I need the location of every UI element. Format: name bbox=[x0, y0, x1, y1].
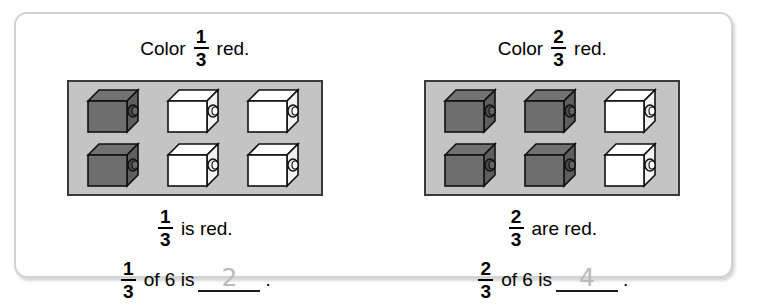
problem-2: Color 2 3 red. bbox=[374, 14, 732, 276]
worksheet-frame: Color 1 3 red. bbox=[14, 12, 733, 278]
fraction-denominator: 3 bbox=[122, 282, 135, 301]
cube-dark[interactable] bbox=[523, 88, 581, 134]
fraction-numerator: 1 bbox=[122, 259, 135, 278]
equation-period: . bbox=[623, 270, 628, 289]
answer-rule bbox=[556, 290, 618, 292]
fraction-denominator: 3 bbox=[552, 50, 565, 69]
cube-white[interactable] bbox=[603, 88, 661, 134]
equation-fraction: 1 3 bbox=[121, 259, 136, 302]
problem-1-cube-panel bbox=[67, 80, 323, 196]
problem-2-cube-panel bbox=[424, 80, 680, 196]
cube-dark[interactable] bbox=[443, 142, 501, 188]
fraction-denominator: 3 bbox=[159, 230, 172, 249]
statement-fraction: 1 3 bbox=[158, 207, 173, 250]
cube-dark[interactable] bbox=[523, 142, 581, 188]
prompt-fraction: 1 3 bbox=[194, 27, 209, 70]
fraction-denominator: 3 bbox=[195, 50, 208, 69]
cube-white[interactable] bbox=[246, 88, 304, 134]
cube-white[interactable] bbox=[166, 88, 224, 134]
cube-row bbox=[443, 142, 661, 188]
prompt-fraction: 2 3 bbox=[551, 27, 566, 70]
problem-1-statement: 1 3 is red. bbox=[156, 207, 234, 250]
equation-text: of 6 is bbox=[500, 270, 553, 289]
problem-1-equation: 1 3 of 6 is 2 . bbox=[119, 259, 271, 302]
fraction-numerator: 2 bbox=[510, 207, 523, 226]
cube-dark[interactable] bbox=[86, 88, 144, 134]
problem-columns: Color 1 3 red. bbox=[16, 14, 731, 276]
fraction-numerator: 2 bbox=[479, 259, 492, 278]
cube-white[interactable] bbox=[166, 142, 224, 188]
cube-row bbox=[443, 88, 661, 134]
cube-row bbox=[86, 142, 304, 188]
cube-row bbox=[86, 88, 304, 134]
prompt-lead-text: Color bbox=[139, 39, 186, 58]
problem-1-prompt: Color 1 3 red. bbox=[139, 27, 250, 70]
problem-2-prompt: Color 2 3 red. bbox=[497, 27, 608, 70]
fraction-denominator: 3 bbox=[479, 282, 492, 301]
answer-blank-2[interactable]: 4 bbox=[556, 268, 618, 292]
statement-text: is red. bbox=[180, 219, 234, 238]
answer-blank-1[interactable]: 2 bbox=[198, 268, 260, 292]
prompt-lead-text: Color bbox=[497, 39, 544, 58]
problem-2-equation: 2 3 of 6 is 4 . bbox=[476, 259, 628, 302]
fraction-numerator: 2 bbox=[552, 27, 565, 46]
problem-2-statement: 2 3 are red. bbox=[507, 207, 598, 250]
problem-1: Color 1 3 red. bbox=[16, 14, 374, 276]
equation-text: of 6 is bbox=[143, 270, 196, 289]
cube-white[interactable] bbox=[246, 142, 304, 188]
prompt-trail-text: red. bbox=[573, 39, 608, 58]
equation-period: . bbox=[265, 270, 270, 289]
handwritten-answer: 4 bbox=[556, 265, 618, 290]
answer-rule bbox=[198, 290, 260, 292]
statement-text: are red. bbox=[531, 219, 598, 238]
fraction-numerator: 1 bbox=[159, 207, 172, 226]
cube-dark[interactable] bbox=[86, 142, 144, 188]
handwritten-answer: 2 bbox=[198, 265, 260, 290]
cube-dark[interactable] bbox=[443, 88, 501, 134]
fraction-denominator: 3 bbox=[510, 230, 523, 249]
prompt-trail-text: red. bbox=[216, 39, 251, 58]
cube-white[interactable] bbox=[603, 142, 661, 188]
fraction-numerator: 1 bbox=[195, 27, 208, 46]
statement-fraction: 2 3 bbox=[509, 207, 524, 250]
equation-fraction: 2 3 bbox=[478, 259, 493, 302]
